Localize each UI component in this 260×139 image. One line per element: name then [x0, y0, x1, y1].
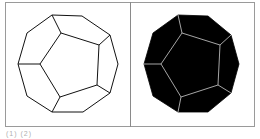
dodecahedron-outline-panel: [5, 2, 130, 127]
dodecahedron-solid-panel: [131, 2, 255, 127]
figure-caption: (1) (2): [6, 130, 32, 137]
